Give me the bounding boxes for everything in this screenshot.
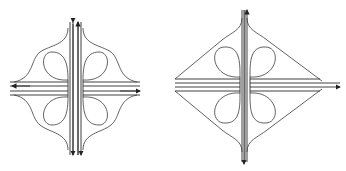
right-vertical-highway — [242, 10, 247, 164]
left-interchange — [10, 22, 140, 155]
interchange-figure — [0, 0, 346, 171]
left-vertical-highway — [70, 22, 81, 155]
left-outer-ramps — [14, 28, 137, 150]
left-horizontal-highway — [10, 80, 140, 97]
left-loops — [44, 52, 108, 125]
right-diagonal-ramps — [175, 18, 322, 152]
right-horizontal-highway — [175, 77, 340, 93]
right-interchange — [175, 10, 340, 164]
interchange-diagrams — [0, 0, 346, 171]
